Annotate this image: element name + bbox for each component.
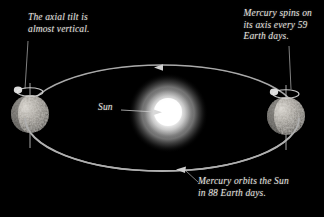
mercury-orbit-diagram: The axial tilt is almost vertical. Mercu…: [0, 0, 324, 217]
caption-spin-period: Mercury spins on its axis every 59 Earth…: [243, 8, 312, 43]
caption-axial-tilt: The axial tilt is almost vertical.: [28, 12, 90, 35]
caption-orbit-period: Mercury orbits the Sun in 88 Earth days.: [198, 176, 289, 199]
label-sun: Sun: [98, 102, 113, 114]
sun-body: [128, 73, 208, 153]
